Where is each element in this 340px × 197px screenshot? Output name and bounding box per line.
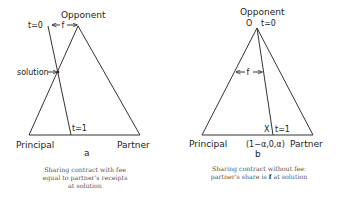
panel-letter-a: a — [84, 148, 90, 158]
solution-label: solution — [17, 68, 49, 77]
caption-b-line1: Sharing contract without fee: — [212, 165, 306, 173]
t0-label-a: t=0 — [28, 21, 43, 30]
base-point-label-b: (1−α,0,α) — [246, 140, 285, 149]
panel-a: Opponent t=0 f solution t=1 Principal Pa… — [16, 10, 150, 189]
t1-label-a: t=1 — [72, 124, 87, 133]
t-line-a — [48, 26, 71, 135]
principal-label-a: Principal — [16, 140, 54, 150]
t0-label-b: t=0 — [261, 19, 276, 28]
panel-letter-b: b — [255, 149, 261, 159]
f-label-b: f — [247, 68, 250, 77]
panel-b: Opponent O t=0 f X t=1 Principal (1−α,0,… — [189, 7, 323, 181]
partner-label-b: Partner — [290, 139, 323, 149]
x-label-b: X — [264, 125, 270, 134]
caption-b-line2-pre: partner's share is — [211, 173, 269, 181]
caption-b-line2-post: at solution — [272, 173, 308, 180]
triangle-a — [29, 26, 140, 135]
diagram-canvas: Opponent t=0 f solution t=1 Principal Pa… — [0, 0, 340, 197]
f-label-a: f — [62, 21, 65, 30]
triangle-b — [202, 28, 313, 135]
caption-a-line3: at solution — [68, 182, 102, 189]
caption-a-line2: equal to partner's receipts — [43, 174, 128, 182]
opponent-label-b: Opponent — [240, 7, 285, 17]
caption-b-line2: partner's share is f at solution — [211, 173, 308, 181]
principal-label-b: Principal — [189, 139, 227, 149]
solution-point — [57, 71, 60, 74]
opponent-label-a: Opponent — [61, 10, 106, 20]
apex-point-label-b: O — [246, 19, 252, 28]
caption-a-line1: Sharing contract with fee — [44, 166, 126, 174]
t1-label-b: t=1 — [275, 125, 290, 134]
partner-label-a: Partner — [117, 140, 150, 150]
